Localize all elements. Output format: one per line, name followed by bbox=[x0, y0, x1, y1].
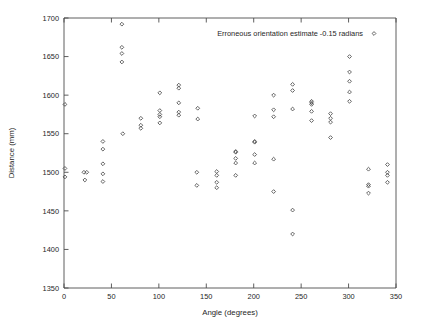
data-point bbox=[196, 117, 200, 121]
legend: Erroneous orientation estimate -0.15 rad… bbox=[217, 29, 376, 38]
data-point bbox=[139, 116, 143, 120]
data-point bbox=[215, 180, 219, 184]
legend-diamond-icon bbox=[372, 32, 376, 36]
data-point bbox=[195, 170, 199, 174]
x-tick-label: 250 bbox=[295, 292, 307, 301]
data-point bbox=[291, 107, 295, 111]
data-point bbox=[158, 91, 162, 95]
y-tick-label: 1700 bbox=[43, 14, 59, 23]
y-tick-label: 1650 bbox=[43, 52, 59, 61]
data-point bbox=[234, 173, 238, 177]
data-point bbox=[85, 170, 89, 174]
data-point bbox=[291, 89, 295, 93]
y-axis-title: Distance (mm) bbox=[7, 127, 16, 178]
data-point bbox=[386, 163, 390, 167]
data-point bbox=[195, 184, 199, 188]
x-tick-label: 100 bbox=[153, 292, 165, 301]
data-point bbox=[121, 132, 125, 136]
data-point bbox=[272, 108, 276, 112]
data-point bbox=[367, 167, 371, 171]
data-point bbox=[253, 114, 257, 118]
x-tick-label: 300 bbox=[342, 292, 354, 301]
plot-canvas: 13501400145015001550160016501700 0501001… bbox=[0, 0, 426, 324]
data-point bbox=[348, 90, 352, 94]
x-axis-title: Angle (degrees) bbox=[202, 308, 258, 317]
data-point bbox=[177, 101, 181, 105]
data-point bbox=[101, 172, 105, 176]
y-tick-label: 1400 bbox=[43, 245, 59, 254]
data-point bbox=[83, 178, 87, 182]
x-tick-label: 50 bbox=[107, 292, 115, 301]
data-point bbox=[120, 22, 124, 26]
data-point bbox=[386, 180, 390, 184]
data-point bbox=[386, 173, 390, 177]
data-point bbox=[158, 109, 162, 113]
scatter-plot-figure: 13501400145015001550160016501700 0501001… bbox=[0, 0, 426, 324]
y-tick-label: 1450 bbox=[43, 207, 59, 216]
data-point bbox=[329, 116, 333, 120]
data-point bbox=[348, 99, 352, 103]
data-point bbox=[101, 180, 105, 184]
data-point bbox=[348, 79, 352, 83]
x-tick-label: 150 bbox=[200, 292, 212, 301]
data-point bbox=[272, 190, 276, 194]
data-point bbox=[272, 93, 276, 97]
y-tick-label: 1350 bbox=[43, 284, 59, 293]
data-point bbox=[291, 82, 295, 86]
legend-marker-icon bbox=[372, 32, 376, 36]
data-point bbox=[177, 86, 181, 90]
data-point bbox=[348, 55, 352, 59]
data-point bbox=[348, 70, 352, 74]
x-tick-label: 350 bbox=[390, 292, 402, 301]
data-point bbox=[367, 191, 371, 195]
x-tick-label: 0 bbox=[62, 292, 66, 301]
data-point bbox=[329, 136, 333, 140]
data-point bbox=[120, 45, 124, 49]
data-point bbox=[310, 109, 314, 113]
legend-entry-label: Erroneous orientation estimate -0.15 rad… bbox=[217, 29, 363, 38]
data-point bbox=[215, 173, 219, 177]
y-tick-label: 1550 bbox=[43, 129, 59, 138]
data-point-group bbox=[63, 22, 389, 236]
data-point bbox=[234, 157, 238, 161]
data-point bbox=[139, 126, 143, 130]
data-point bbox=[101, 147, 105, 151]
data-point bbox=[215, 186, 219, 190]
axis-frame bbox=[64, 18, 396, 288]
data-point bbox=[253, 161, 257, 165]
x-tick-label: 200 bbox=[248, 292, 260, 301]
data-point bbox=[272, 115, 276, 119]
data-point bbox=[101, 140, 105, 144]
data-point bbox=[272, 157, 276, 161]
data-point bbox=[310, 119, 314, 123]
data-point bbox=[291, 232, 295, 236]
data-point bbox=[329, 112, 333, 116]
data-point bbox=[291, 208, 295, 212]
data-point bbox=[234, 161, 238, 165]
y-tick-label: 1600 bbox=[43, 91, 59, 100]
data-point bbox=[196, 106, 200, 110]
x-axis-ticks: 050100150200250300350 bbox=[62, 18, 402, 301]
data-point bbox=[329, 120, 333, 124]
data-point bbox=[215, 170, 219, 174]
data-point bbox=[158, 121, 162, 125]
data-point bbox=[101, 162, 105, 166]
data-point bbox=[253, 153, 257, 157]
data-point bbox=[120, 60, 124, 64]
data-point bbox=[120, 52, 124, 56]
y-tick-label: 1500 bbox=[43, 168, 59, 177]
y-axis-ticks: 13501400145015001550160016501700 bbox=[43, 14, 69, 293]
data-point bbox=[177, 113, 181, 117]
